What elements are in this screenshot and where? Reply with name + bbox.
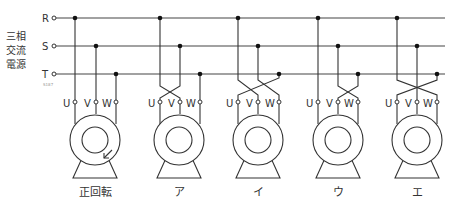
terminal-V [336, 100, 340, 104]
source-terminal-S [52, 44, 56, 48]
junction-dot [158, 16, 163, 21]
phase-label-T: T [41, 69, 49, 80]
junction-dot [256, 44, 261, 49]
terminal-U [316, 100, 320, 104]
terminal-W [277, 100, 281, 104]
terminal-W [356, 100, 360, 104]
terminal-V [415, 100, 419, 104]
junction-dot [178, 44, 183, 49]
motor-rotor-circle [245, 127, 271, 153]
motor-option-u: U V W ウ [306, 16, 363, 199]
terminal-label-U: U [226, 98, 233, 109]
motor-rotor-circle [325, 127, 351, 153]
junction-dot [316, 16, 321, 21]
motor-rotor-circle [82, 127, 108, 153]
motor-caption: 正回転 [79, 186, 112, 199]
junction-dot [395, 16, 400, 21]
junction-dot [114, 72, 119, 77]
terminal-W [435, 100, 439, 104]
motor-rotor-circle [166, 127, 192, 153]
motor-caption: エ [412, 186, 423, 199]
terminal-label-U: U [148, 98, 155, 109]
terminal-label-W: W [423, 98, 433, 109]
motor-option-i: U V W イ [226, 16, 283, 199]
source-label-line-1: 三相 [6, 30, 26, 42]
terminal-U [236, 100, 240, 104]
source-terminal-T [52, 72, 56, 76]
junction-dot [415, 44, 420, 49]
junction-dot [356, 72, 361, 77]
junction-dot [236, 16, 241, 21]
motor-caption: イ [253, 186, 264, 199]
terminal-V [94, 100, 98, 104]
terminal-label-W: W [265, 98, 275, 109]
power-source-label: 三相 交流 電源 [6, 30, 26, 70]
phase-bus-S: S [42, 41, 445, 52]
junction-dot [73, 16, 78, 21]
terminal-label-V: V [84, 98, 91, 109]
phase-label-S: S [42, 41, 48, 52]
motor-forward: U V W 正回転 [63, 16, 120, 199]
terminal-label-V: V [326, 98, 333, 109]
junction-dot [94, 44, 99, 49]
terminal-U [158, 100, 162, 104]
terminal-label-V: V [246, 98, 253, 109]
phase-label-R: R [42, 13, 49, 24]
motor-caption: ウ [333, 186, 344, 199]
terminal-V [256, 100, 260, 104]
terminal-label-W: W [102, 98, 112, 109]
junction-dot [435, 72, 440, 77]
motor-rotor-circle [404, 127, 430, 153]
terminal-U [395, 100, 399, 104]
motor-option-e: U V W エ [385, 16, 442, 199]
terminal-W [198, 100, 202, 104]
terminal-V [178, 100, 182, 104]
terminal-label-U: U [385, 98, 392, 109]
source-label-line-3: 電源 [6, 58, 26, 70]
motor-caption: ア [174, 186, 185, 199]
source-terminal-R [52, 16, 56, 20]
terminal-label-V: V [168, 98, 175, 109]
terminal-W [114, 100, 118, 104]
junction-dot [336, 44, 341, 49]
terminal-label-W: W [344, 98, 354, 109]
terminal-U [73, 100, 77, 104]
junction-dot [277, 72, 282, 77]
three-phase-motor-wiring-diagram: 三相 交流 電源 R S T S187 U V W [0, 0, 455, 208]
terminal-label-U: U [63, 98, 70, 109]
motor-option-a: U V W ア [148, 16, 204, 199]
terminal-label-W: W [186, 98, 196, 109]
terminal-label-U: U [306, 98, 313, 109]
source-label-line-2: 交流 [6, 44, 26, 56]
watermark-text: S187 [43, 82, 54, 87]
junction-dot [198, 72, 203, 77]
phase-bus-R: R [42, 13, 445, 24]
terminal-label-V: V [405, 98, 412, 109]
